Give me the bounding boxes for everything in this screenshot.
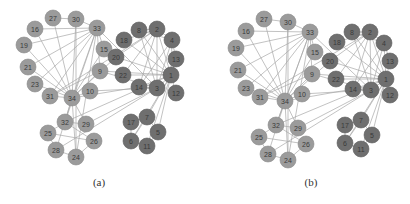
node-16: 16 xyxy=(27,21,43,37)
svg-text:2: 2 xyxy=(368,29,372,36)
svg-text:15: 15 xyxy=(311,49,319,56)
node-10: 10 xyxy=(82,83,98,99)
node-11: 11 xyxy=(139,138,155,154)
node-4: 4 xyxy=(164,32,180,48)
svg-text:28: 28 xyxy=(264,151,272,158)
node-33: 33 xyxy=(302,24,318,40)
node-25: 25 xyxy=(251,129,267,145)
node-22: 22 xyxy=(328,71,344,87)
node-3: 3 xyxy=(149,80,165,96)
network-graphs: 1234567891011121314151617181920212223242… xyxy=(0,0,410,204)
svg-text:16: 16 xyxy=(242,28,250,35)
node-17: 17 xyxy=(337,117,353,133)
node-30: 30 xyxy=(280,14,296,30)
node-20: 20 xyxy=(322,53,338,69)
node-27: 27 xyxy=(45,10,61,26)
svg-text:32: 32 xyxy=(61,119,69,126)
node-6: 6 xyxy=(123,133,139,149)
node-23: 23 xyxy=(238,80,254,96)
node-26: 26 xyxy=(86,133,102,149)
svg-text:20: 20 xyxy=(112,54,120,61)
node-30: 30 xyxy=(68,11,84,27)
node-27: 27 xyxy=(256,11,272,27)
node-5: 5 xyxy=(150,124,166,140)
node-21: 21 xyxy=(20,59,36,75)
node-31: 31 xyxy=(42,88,58,104)
node-33: 33 xyxy=(89,20,105,36)
node-28: 28 xyxy=(48,142,64,158)
svg-text:15: 15 xyxy=(100,46,108,53)
node-25: 25 xyxy=(40,125,56,141)
svg-text:31: 31 xyxy=(256,94,264,101)
node-17: 17 xyxy=(123,114,139,130)
svg-text:5: 5 xyxy=(370,132,374,139)
node-13: 13 xyxy=(382,53,398,69)
node-11: 11 xyxy=(353,141,369,157)
node-14: 14 xyxy=(345,81,361,97)
node-29: 29 xyxy=(78,116,94,132)
svg-text:7: 7 xyxy=(359,117,363,124)
svg-text:24: 24 xyxy=(284,157,292,164)
svg-text:12: 12 xyxy=(386,92,394,99)
svg-text:28: 28 xyxy=(52,147,60,154)
node-3: 3 xyxy=(363,82,379,98)
svg-text:22: 22 xyxy=(332,76,340,83)
svg-text:26: 26 xyxy=(90,138,98,145)
svg-text:6: 6 xyxy=(129,138,133,145)
node-1: 1 xyxy=(378,71,394,87)
svg-text:21: 21 xyxy=(24,64,32,71)
graph-panel-a: 1234567891011121314151617181920212223242… xyxy=(16,10,184,165)
node-2: 2 xyxy=(362,24,378,40)
node-18: 18 xyxy=(329,34,345,50)
svg-text:3: 3 xyxy=(155,85,159,92)
node-22: 22 xyxy=(115,67,131,83)
node-20: 20 xyxy=(108,49,124,65)
svg-text:34: 34 xyxy=(68,95,76,102)
svg-text:22: 22 xyxy=(119,72,127,79)
svg-text:16: 16 xyxy=(31,26,39,33)
svg-text:30: 30 xyxy=(72,16,80,23)
node-12: 12 xyxy=(382,87,398,103)
svg-text:23: 23 xyxy=(242,85,250,92)
svg-text:18: 18 xyxy=(120,37,128,44)
node-5: 5 xyxy=(364,127,380,143)
svg-text:32: 32 xyxy=(272,122,280,129)
svg-text:33: 33 xyxy=(306,29,314,36)
edge xyxy=(246,32,310,88)
svg-text:4: 4 xyxy=(170,37,174,44)
svg-text:3: 3 xyxy=(369,87,373,94)
svg-text:1: 1 xyxy=(169,72,173,79)
node-1: 1 xyxy=(163,67,179,83)
svg-text:25: 25 xyxy=(255,134,263,141)
svg-text:26: 26 xyxy=(302,141,310,148)
caption-a: (a) xyxy=(79,176,119,188)
svg-text:1: 1 xyxy=(384,76,388,83)
node-26: 26 xyxy=(298,136,314,152)
node-8: 8 xyxy=(344,24,360,40)
svg-text:10: 10 xyxy=(298,91,306,98)
node-32: 32 xyxy=(268,117,284,133)
node-6: 6 xyxy=(337,135,353,151)
svg-text:31: 31 xyxy=(46,93,54,100)
svg-text:9: 9 xyxy=(310,71,314,78)
node-19: 19 xyxy=(16,37,32,53)
graph-panel-b: 1234567891011121314151617181920212223242… xyxy=(228,11,398,168)
edge xyxy=(53,18,72,98)
svg-text:19: 19 xyxy=(20,42,28,49)
node-21: 21 xyxy=(230,62,246,78)
svg-text:11: 11 xyxy=(357,146,364,153)
svg-text:8: 8 xyxy=(350,29,354,36)
figure: 1234567891011121314151617181920212223242… xyxy=(0,0,410,204)
node-34: 34 xyxy=(277,93,293,109)
node-24: 24 xyxy=(68,149,84,165)
node-10: 10 xyxy=(294,86,310,102)
svg-text:24: 24 xyxy=(72,154,80,161)
edge xyxy=(246,31,310,32)
svg-text:20: 20 xyxy=(326,58,334,65)
node-16: 16 xyxy=(238,23,254,39)
node-34: 34 xyxy=(64,90,80,106)
svg-text:4: 4 xyxy=(382,40,386,47)
caption-b: (b) xyxy=(291,176,331,188)
node-7: 7 xyxy=(353,112,369,128)
node-7: 7 xyxy=(139,109,155,125)
